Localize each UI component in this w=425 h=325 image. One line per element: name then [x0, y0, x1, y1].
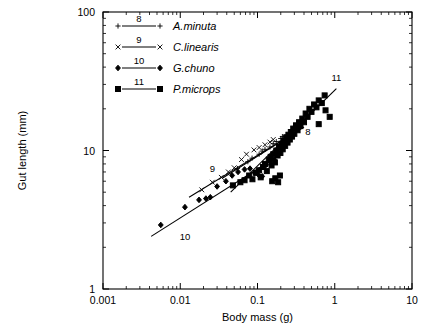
legend-number-8: 8 [136, 13, 141, 24]
data-point-square [272, 160, 277, 165]
x-axis-title: Body mass (g) [222, 311, 293, 323]
x-tick-label: 0.1 [250, 294, 265, 306]
y-tick-label: 100 [77, 6, 95, 18]
x-tick-label: 10 [406, 294, 418, 306]
data-point-square [309, 109, 314, 114]
legend-label-C.linearis: C.linearis [173, 41, 219, 53]
data-point-square [264, 169, 269, 174]
legend-label-G.chuno: G.chuno [173, 62, 215, 74]
legend-marker-square [158, 87, 163, 92]
x-tick-label: 1 [332, 294, 338, 306]
line-annotation-10: 10 [180, 231, 191, 242]
data-point-square [302, 120, 307, 125]
line-annotation-8: 8 [305, 126, 310, 137]
legend-number-9: 9 [136, 34, 141, 45]
data-point-square [276, 180, 281, 185]
data-point-square [250, 177, 255, 182]
data-point-square [230, 183, 235, 188]
y-axis-title: Gut length (mm) [16, 111, 28, 190]
y-tick-label: 10 [83, 145, 95, 157]
legend-number-10: 10 [134, 55, 145, 66]
data-point-square [322, 93, 327, 98]
data-point-square [277, 173, 282, 178]
data-point-square [323, 108, 328, 113]
line-annotation-11: 11 [331, 72, 341, 83]
data-point-square [316, 122, 321, 127]
x-tick-label: 0.01 [170, 294, 191, 306]
legend-marker-square [116, 87, 121, 92]
data-point-square [305, 114, 310, 119]
data-point-square [314, 105, 319, 110]
legend-label-P.microps: P.microps [173, 83, 221, 95]
legend-number-11: 11 [134, 76, 144, 87]
y-tick-label: 1 [89, 283, 95, 295]
x-tick-label: 0.001 [90, 294, 116, 306]
data-point-square [319, 101, 324, 106]
line-annotation-9: 9 [210, 163, 215, 174]
data-point-square [327, 114, 332, 119]
gut-length-body-mass-scatter-plot: 0.0010.010.1110110100Body mass (g)Gut le… [0, 0, 425, 325]
legend-label-A.minuta: A.minuta [172, 20, 216, 32]
data-point-square [258, 175, 263, 180]
